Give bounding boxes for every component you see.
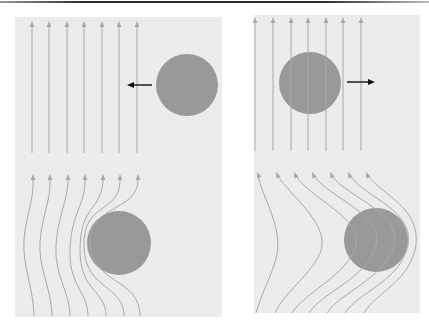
left-panel xyxy=(15,17,222,317)
flow-diagram xyxy=(0,0,429,327)
right-bottom-sphere xyxy=(344,208,408,272)
right-top-sphere xyxy=(279,52,341,114)
right-panel xyxy=(253,15,420,313)
right-panel-background xyxy=(254,15,420,313)
left-bottom-sphere xyxy=(87,211,151,275)
left-top-sphere xyxy=(156,54,218,116)
